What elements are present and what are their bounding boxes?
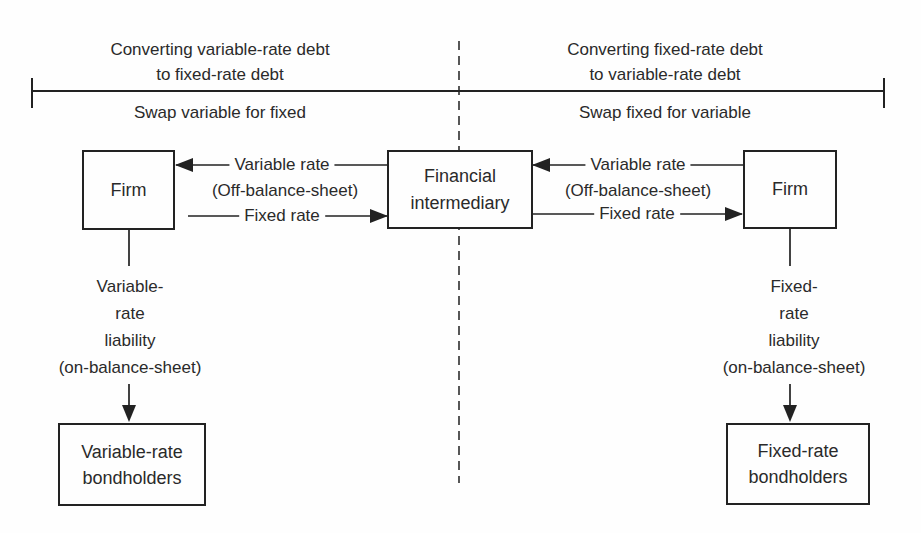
fixed-rate-bondholders-line2: bondholders	[748, 464, 847, 490]
right-section-title-line1: Converting fixed-rate debt	[465, 37, 865, 62]
variable-rate-bondholders-line2: bondholders	[82, 465, 181, 491]
right-variable-rate-arrowhead	[532, 158, 550, 172]
financial-intermediary-label-line2: intermediary	[410, 190, 509, 217]
financial-intermediary-label-line1: Financial	[424, 163, 496, 190]
variable-rate-bondholders-line1: Variable-rate	[81, 439, 183, 465]
left-off-balance-sheet-label: (Off-balance-sheet)	[207, 181, 363, 201]
right-fixed-rate-arrowhead	[725, 207, 743, 221]
right-liability-arrowhead	[783, 405, 797, 422]
right-liability-stack: Fixed- rate liability (on-balance-sheet)	[723, 273, 866, 381]
left-section-title: Converting variable-rate debt to fixed-r…	[20, 37, 420, 87]
right-variable-rate-label: Variable rate	[585, 155, 690, 175]
fixed-rate-bondholders-box: Fixed-rate bondholders	[726, 423, 870, 505]
firm-left-box: Firm	[82, 150, 175, 230]
variable-rate-bondholders-box: Variable-rate bondholders	[58, 423, 206, 506]
right-liability-line2: rate	[723, 300, 866, 327]
right-section-title: Converting fixed-rate debt to variable-r…	[465, 37, 865, 87]
left-variable-rate-arrowhead	[175, 158, 193, 172]
left-section-title-line2: to fixed-rate debt	[20, 62, 420, 87]
firm-right-box: Firm	[743, 150, 837, 229]
left-liability-line2: rate	[59, 300, 202, 327]
right-section-subtitle: Swap fixed for variable	[465, 103, 865, 123]
left-liability-stack: Variable- rate liability (on-balance-she…	[59, 273, 202, 381]
right-liability-line4: (on-balance-sheet)	[723, 354, 866, 381]
firm-left-label: Firm	[111, 177, 147, 204]
left-liability-line1: Variable-	[59, 273, 202, 300]
right-fixed-rate-label: Fixed rate	[594, 204, 680, 224]
swap-diagram: Converting variable-rate debt to fixed-r…	[0, 0, 921, 533]
right-liability-line1: Fixed-	[723, 273, 866, 300]
left-variable-rate-label: Variable rate	[229, 155, 334, 175]
left-liability-arrowhead	[122, 405, 136, 422]
fixed-rate-bondholders-line1: Fixed-rate	[757, 438, 838, 464]
left-section-title-line1: Converting variable-rate debt	[20, 37, 420, 62]
financial-intermediary-box: Financial intermediary	[387, 150, 533, 229]
right-liability-line3: liability	[723, 327, 866, 354]
left-liability-line3: liability	[59, 327, 202, 354]
left-fixed-rate-arrowhead	[370, 209, 388, 223]
right-off-balance-sheet-label: (Off-balance-sheet)	[560, 181, 716, 201]
left-liability-line4: (on-balance-sheet)	[59, 354, 202, 381]
firm-right-label: Firm	[772, 176, 808, 203]
right-section-title-line2: to variable-rate debt	[465, 62, 865, 87]
left-fixed-rate-label: Fixed rate	[239, 206, 325, 226]
left-section-subtitle: Swap variable for fixed	[20, 103, 420, 123]
